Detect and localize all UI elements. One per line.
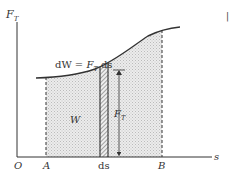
ds-strip bbox=[100, 63, 108, 157]
point-a-label: A bbox=[42, 160, 50, 171]
work-diagram: FT dW = FT ds W FT O A ds B s | bbox=[0, 0, 230, 172]
area-label: W bbox=[70, 114, 81, 125]
y-axis-label: FT bbox=[5, 8, 20, 23]
ds-label: ds bbox=[98, 160, 110, 171]
origin-label: O bbox=[14, 160, 22, 171]
x-axis-label: s bbox=[214, 151, 219, 162]
corner-mark: | bbox=[226, 11, 229, 22]
point-b-label: B bbox=[157, 160, 165, 171]
